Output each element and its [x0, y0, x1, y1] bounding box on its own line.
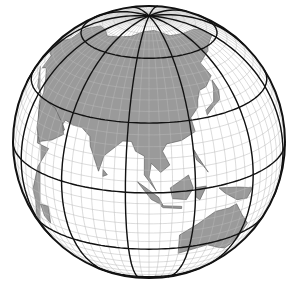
- globe-map: [0, 0, 301, 287]
